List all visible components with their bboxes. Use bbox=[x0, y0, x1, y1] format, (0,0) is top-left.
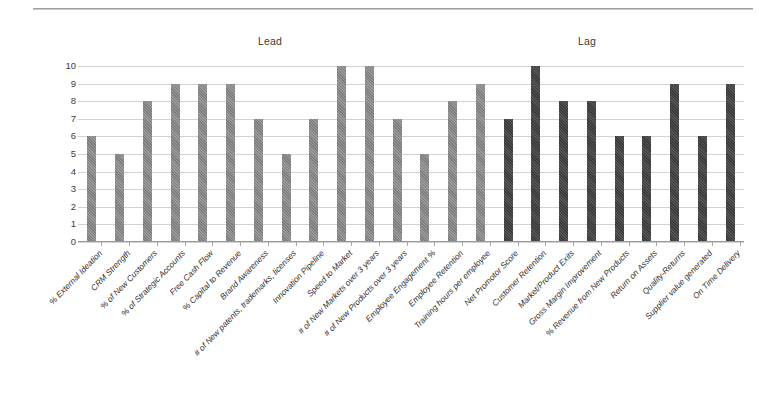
bar-series bbox=[78, 66, 744, 242]
x-tick bbox=[545, 242, 546, 246]
x-axis-ticks bbox=[78, 242, 744, 246]
bar bbox=[254, 119, 263, 242]
y-tick-label: 4 bbox=[71, 167, 76, 177]
bar bbox=[282, 154, 291, 242]
x-tick bbox=[323, 242, 324, 246]
bar bbox=[420, 154, 429, 242]
bar bbox=[337, 66, 346, 242]
y-tick-label: 7 bbox=[71, 114, 76, 124]
bar bbox=[642, 136, 651, 242]
x-tick bbox=[379, 242, 380, 246]
x-tick bbox=[101, 242, 102, 246]
x-tick bbox=[240, 242, 241, 246]
bar bbox=[198, 84, 207, 242]
x-axis-category-labels: % External IdeationCRM Strength% of New … bbox=[78, 248, 744, 398]
y-tick-label: 10 bbox=[65, 61, 76, 71]
chart-page: Lead Lag 109876543210 % External Ideatio… bbox=[0, 0, 759, 403]
bar bbox=[559, 101, 568, 242]
x-tick bbox=[462, 242, 463, 246]
x-tick bbox=[157, 242, 158, 246]
bar bbox=[504, 119, 513, 242]
x-tick bbox=[712, 242, 713, 246]
x-tick bbox=[629, 242, 630, 246]
x-tick bbox=[490, 242, 491, 246]
header-divider bbox=[33, 8, 753, 10]
y-tick-label: 9 bbox=[71, 79, 76, 89]
x-tick bbox=[518, 242, 519, 246]
bar bbox=[87, 136, 96, 242]
y-tick-label: 1 bbox=[71, 220, 76, 230]
bar bbox=[309, 119, 318, 242]
x-tick bbox=[296, 242, 297, 246]
y-tick-label: 6 bbox=[71, 132, 76, 142]
bar bbox=[726, 84, 735, 242]
x-tick bbox=[573, 242, 574, 246]
group-heading-lead: Lead bbox=[258, 35, 282, 47]
bar bbox=[587, 101, 596, 242]
bar bbox=[393, 119, 402, 242]
y-tick-label: 0 bbox=[71, 237, 76, 247]
bar bbox=[448, 101, 457, 242]
x-tick bbox=[601, 242, 602, 246]
x-tick bbox=[351, 242, 352, 246]
x-tick bbox=[268, 242, 269, 246]
bar bbox=[171, 84, 180, 242]
bar bbox=[698, 136, 707, 242]
bar bbox=[143, 101, 152, 242]
bar bbox=[226, 84, 235, 242]
plot-area bbox=[78, 66, 744, 242]
y-tick-label: 2 bbox=[71, 202, 76, 212]
x-tick bbox=[212, 242, 213, 246]
y-tick-label: 3 bbox=[71, 184, 76, 194]
bar bbox=[115, 154, 124, 242]
x-category-label: # of New patents, trademarks, licenses bbox=[192, 248, 299, 358]
x-tick bbox=[434, 242, 435, 246]
x-tick bbox=[656, 242, 657, 246]
x-tick bbox=[684, 242, 685, 246]
bar bbox=[365, 66, 374, 242]
y-tick-label: 8 bbox=[71, 96, 76, 106]
bar bbox=[615, 136, 624, 242]
bar bbox=[670, 84, 679, 242]
y-tick-label: 5 bbox=[71, 149, 76, 159]
x-tick bbox=[129, 242, 130, 246]
bar bbox=[531, 66, 540, 242]
x-tick bbox=[185, 242, 186, 246]
bar bbox=[476, 84, 485, 242]
x-tick bbox=[407, 242, 408, 246]
x-tick bbox=[740, 242, 741, 246]
group-heading-lag: Lag bbox=[578, 35, 596, 47]
x-category-label: Brand Awareness bbox=[218, 248, 270, 302]
y-axis-tick-labels: 109876543210 bbox=[58, 66, 76, 242]
